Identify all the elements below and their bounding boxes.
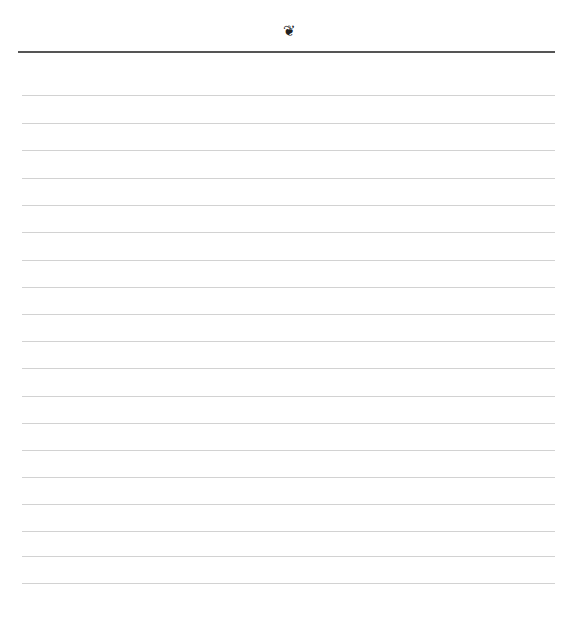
header-rule: [18, 51, 555, 53]
ruled-line: [22, 531, 555, 532]
ruled-line: [22, 95, 555, 96]
ruled-line: [22, 314, 555, 315]
ruled-line: [22, 287, 555, 288]
ruled-line: [22, 123, 555, 124]
ruled-line: [22, 260, 555, 261]
ruled-line: [22, 396, 555, 397]
fleuron-icon: ❦: [0, 22, 578, 40]
ruled-line: [22, 368, 555, 369]
ruled-line: [22, 205, 555, 206]
ruled-line: [22, 341, 555, 342]
ruled-line: [22, 150, 555, 151]
ruled-line: [22, 556, 555, 557]
ruled-line: [22, 504, 555, 505]
ruled-line: [22, 178, 555, 179]
ruled-line: [22, 232, 555, 233]
ruled-line: [22, 450, 555, 451]
ruled-line: [22, 423, 555, 424]
ruled-line: [22, 477, 555, 478]
ruled-line: [22, 583, 555, 584]
